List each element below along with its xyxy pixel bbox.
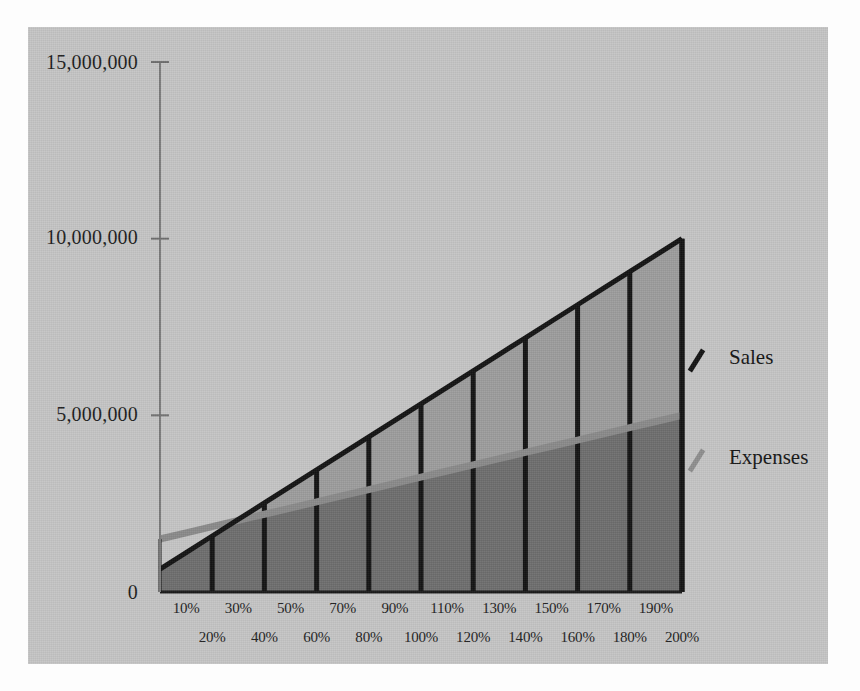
y-tick-label-5m: 5,000,000 bbox=[28, 403, 138, 426]
x-tick-label-100pct: 100% bbox=[398, 629, 444, 646]
scanned-page: 15,000,000 10,000,000 5,000,000 0 10%30%… bbox=[0, 0, 860, 691]
x-tick-label-80pct: 80% bbox=[346, 629, 392, 646]
legend-item-expenses[interactable]: Expenses bbox=[692, 445, 808, 470]
x-tick-label-30pct: 30% bbox=[215, 600, 261, 617]
y-tick-label-0: 0 bbox=[28, 581, 138, 604]
x-tick-label-20pct: 20% bbox=[189, 629, 235, 646]
x-tick-label-160pct: 160% bbox=[555, 629, 601, 646]
y-tick-label-15m: 15,000,000 bbox=[28, 51, 138, 74]
expenses-line-icon bbox=[692, 447, 718, 469]
x-tick-label-110pct: 110% bbox=[424, 600, 470, 617]
x-tick-label-180pct: 180% bbox=[607, 629, 653, 646]
x-tick-label-190pct: 190% bbox=[633, 600, 679, 617]
x-tick-label-170pct: 170% bbox=[581, 600, 627, 617]
x-tick-label-200pct: 200% bbox=[659, 629, 705, 646]
x-tick-label-150pct: 150% bbox=[529, 600, 575, 617]
y-tick-label-10m: 10,000,000 bbox=[28, 226, 138, 249]
legend-label-expenses: Expenses bbox=[729, 445, 808, 470]
x-tick-label-60pct: 60% bbox=[294, 629, 340, 646]
x-tick-label-40pct: 40% bbox=[241, 629, 287, 646]
x-tick-label-130pct: 130% bbox=[476, 600, 522, 617]
chart-panel: 15,000,000 10,000,000 5,000,000 0 10%30%… bbox=[28, 27, 828, 664]
x-tick-label-120pct: 120% bbox=[450, 629, 496, 646]
x-tick-label-90pct: 90% bbox=[372, 600, 418, 617]
x-tick-label-10pct: 10% bbox=[163, 600, 209, 617]
x-tick-label-70pct: 70% bbox=[320, 600, 366, 617]
x-tick-label-140pct: 140% bbox=[502, 629, 548, 646]
sales-line-icon bbox=[692, 347, 718, 369]
legend-item-sales[interactable]: Sales bbox=[692, 345, 773, 370]
legend-label-sales: Sales bbox=[729, 345, 773, 370]
x-tick-label-50pct: 50% bbox=[268, 600, 314, 617]
y-axis bbox=[151, 62, 169, 592]
